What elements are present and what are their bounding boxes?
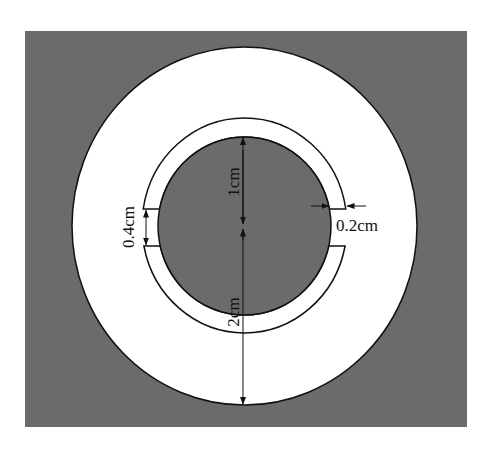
outer-radius-label: 2cm	[224, 297, 243, 326]
gap-height-label: 0.4cm	[119, 206, 138, 248]
inner-radius-label: 1cm	[224, 167, 243, 196]
ring-cross-section-diagram: 1cm 2cm 0.4cm 0.2cm	[0, 0, 485, 453]
ring-width-label: 0.2cm	[336, 216, 378, 235]
inner-gray-circle	[158, 137, 331, 315]
